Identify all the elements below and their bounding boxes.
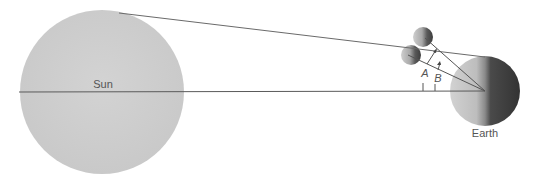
angle-a-label: A bbox=[420, 67, 428, 79]
moon-upper bbox=[413, 27, 433, 47]
arrowhead-b-icon bbox=[437, 61, 441, 65]
sun-label: Sun bbox=[93, 78, 113, 90]
earth-label: Earth bbox=[472, 127, 498, 139]
sun-earth-moon-diagram: Sun Earth A B bbox=[0, 0, 538, 175]
angle-b-label: B bbox=[434, 72, 441, 84]
